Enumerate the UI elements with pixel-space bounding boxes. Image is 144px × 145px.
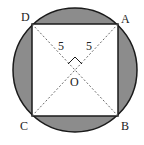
label-od-length: 5 <box>58 40 64 52</box>
label-oa-length: 5 <box>86 40 92 52</box>
label-a: A <box>121 13 130 25</box>
label-b: B <box>121 120 129 132</box>
label-d: D <box>21 11 30 23</box>
label-o: O <box>70 76 79 88</box>
label-c: C <box>20 120 28 132</box>
diagram: D A B C O 5 5 <box>0 0 144 145</box>
